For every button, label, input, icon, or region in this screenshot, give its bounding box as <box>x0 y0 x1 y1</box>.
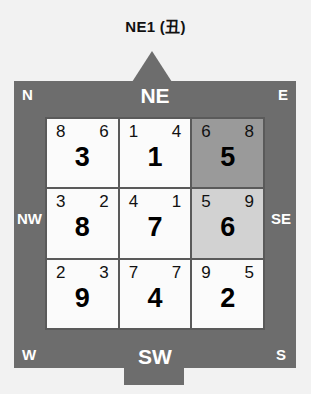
mountain-star: 4 <box>129 192 138 211</box>
water-star: 9 <box>245 192 254 211</box>
period-star: 5 <box>192 143 263 172</box>
water-star: 6 <box>99 122 108 141</box>
compass-frame: N NE E NW SE W SW S 86314168532841759623… <box>14 81 296 368</box>
palace-cell-n[interactable]: 863 <box>47 119 118 187</box>
palace-side-stars: 23 <box>47 263 118 282</box>
mountain-star: 9 <box>201 263 210 282</box>
mountain-star: 7 <box>129 263 138 282</box>
period-star: 8 <box>47 213 118 242</box>
compass-label-east: E <box>278 87 288 103</box>
mountain-star: 2 <box>56 263 65 282</box>
water-star: 8 <box>245 122 254 141</box>
period-star: 6 <box>192 213 263 242</box>
palace-cell-w[interactable]: 239 <box>47 260 118 328</box>
compass-label-northwest: NW <box>17 211 42 227</box>
palace-side-stars: 86 <box>47 122 118 141</box>
palace-side-stars: 32 <box>47 192 118 211</box>
compass-label-south: S <box>276 347 286 363</box>
mountain-star: 5 <box>201 192 210 211</box>
palace-cell-se[interactable]: 596 <box>192 189 263 257</box>
page-title: NE1 (丑) <box>0 18 311 36</box>
period-star: 2 <box>192 284 263 313</box>
palace-cell-e[interactable]: 685 <box>192 119 263 187</box>
palace-side-stars: 77 <box>120 263 191 282</box>
sitting-direction-tab <box>124 366 184 385</box>
water-star: 1 <box>172 192 181 211</box>
water-star: 3 <box>99 263 108 282</box>
period-star: 7 <box>120 213 191 242</box>
compass-label-northeast: NE <box>14 85 296 107</box>
palace-cell-nw[interactable]: 328 <box>47 189 118 257</box>
water-star: 5 <box>245 263 254 282</box>
palace-side-stars: 14 <box>120 122 191 141</box>
facing-direction-arrow-icon <box>132 51 172 82</box>
water-star: 2 <box>99 192 108 211</box>
period-star: 3 <box>47 143 118 172</box>
palace-cell-ne[interactable]: 141 <box>120 119 191 187</box>
palace-side-stars: 95 <box>192 263 263 282</box>
water-star: 4 <box>172 122 181 141</box>
mountain-star: 8 <box>56 122 65 141</box>
water-star: 7 <box>172 263 181 282</box>
palace-cell-center[interactable]: 417 <box>120 189 191 257</box>
period-star: 4 <box>120 284 191 313</box>
palace-side-stars: 59 <box>192 192 263 211</box>
compass-label-southeast: SE <box>271 211 291 227</box>
period-star: 1 <box>120 143 191 172</box>
flying-star-chart: NE1 (丑) N NE E NW SE W SW S 863141685328… <box>0 0 311 394</box>
mountain-star: 1 <box>129 122 138 141</box>
period-star: 9 <box>47 284 118 313</box>
palace-cell-sw[interactable]: 774 <box>120 260 191 328</box>
palace-side-stars: 68 <box>192 122 263 141</box>
mountain-star: 3 <box>56 192 65 211</box>
star-grid: 863141685328417596239774952 <box>45 117 265 330</box>
compass-label-southwest: SW <box>14 346 296 368</box>
mountain-star: 6 <box>201 122 210 141</box>
palace-side-stars: 41 <box>120 192 191 211</box>
palace-cell-s[interactable]: 952 <box>192 260 263 328</box>
